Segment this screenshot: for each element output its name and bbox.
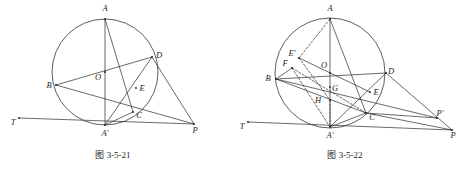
vertex-label-C: C [136,110,142,120]
chord-A-C [105,19,133,112]
vertex-label-E-prime: E' [287,48,295,58]
vertex-dot-F [291,67,293,69]
segment-D-P [386,73,452,130]
vertex-label-A: A [101,3,108,13]
vertex-dot-D [385,72,387,74]
vertex-label-E: E [138,83,145,93]
vertex-dot-A-prime [104,124,106,126]
vertex-dot-B [275,78,277,80]
diameter-B-D [276,73,386,79]
vertex-dot-C [132,111,134,113]
vertex-label-H: H [314,95,322,105]
vertex-dot-H [329,99,331,101]
vertex-label-E: E [372,87,379,97]
vertex-label-P-prime: P' [435,108,443,118]
vertex-dot-G [329,86,331,88]
figure-caption-fig-3-5-22: 图 3-5-22 [327,150,362,160]
vertex-label-O: O [321,60,327,70]
chord-Aprime-D [105,57,152,125]
tangent-T-P [248,122,452,130]
vertex-label-F: F [281,58,288,68]
vertex-dot-A [104,18,106,20]
vertex-label-P: P [449,130,455,140]
vertex-dot-A-prime [329,126,331,128]
vertex-dot-A [329,18,331,20]
vertex-label-C: C [369,112,375,122]
chord-A-C [330,19,366,113]
figure-fig-3-5-21: ABODECA'PT图 3-5-21 [11,3,198,160]
vertex-dot-B [55,84,57,86]
vertex-label-D: D [387,66,395,76]
vertex-label-B: B [265,73,270,83]
segment-B-Pprime [276,79,437,118]
vertex-dot-E [135,87,137,89]
chord-B-D [56,57,152,85]
vertex-label-T: T [11,117,17,127]
vertex-label-D: D [155,50,163,60]
vertex-dot-E-prime [298,57,300,59]
vertex-dot-O [329,72,331,74]
figure-fig-3-5-22: AE'FBODGHECA'P'PT图 3-5-22 [240,3,456,160]
vertex-dot-D [151,56,153,58]
vertex-dot-C [365,112,367,114]
vertex-label-B: B [46,80,51,90]
vertex-dot-T [18,117,20,119]
geometry-figure-sheet: ABODECA'PT图 3-5-21AE'FBODGHECA'P'PT图 3-5… [0,0,469,170]
vertex-label-T: T [240,121,246,131]
vertex-label-O: O [95,72,101,82]
vertex-dot-T [247,121,249,123]
vertex-label-A-prime: A' [100,128,108,138]
vertex-label-A: A [326,3,333,13]
vertex-label-P: P [191,125,197,135]
segment-B-F [276,68,292,79]
figure-caption-fig-3-5-21: 图 3-5-21 [95,150,130,160]
vertex-dot-O [104,71,106,73]
vertex-label-A-prime: A' [325,130,333,140]
geometry-canvas: ABODECA'PT图 3-5-21AE'FBODGHECA'P'PT图 3-5… [0,0,469,170]
vertex-label-G: G [332,83,338,93]
vertex-dot-E [369,91,371,93]
